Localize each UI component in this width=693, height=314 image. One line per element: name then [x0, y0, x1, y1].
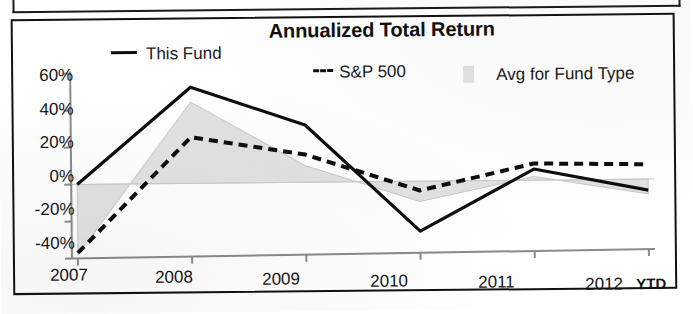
plot-area	[13, 15, 680, 297]
y-tick-label: -40%	[13, 234, 75, 255]
y-tick-label: 20%	[12, 133, 74, 154]
x-axis-suffix-label: YTD	[636, 275, 666, 292]
x-tick-label: 2009	[262, 269, 300, 289]
y-tick-label: -20%	[12, 200, 74, 221]
x-tick-label: 2011	[478, 272, 515, 292]
x-tick-label: 2010	[370, 271, 408, 291]
cropped-frame-above	[12, 0, 680, 13]
chart-container: Annualized Total Return This Fund S&P 50…	[11, 13, 678, 295]
y-tick-label: 0%	[12, 167, 74, 188]
y-tick-label: 40%	[11, 100, 73, 121]
chart-plot-svg	[13, 15, 680, 297]
x-axis-line	[72, 249, 655, 259]
x-tick-label: 2008	[155, 267, 193, 287]
y-tick-label: 60%	[11, 66, 73, 87]
x-tick-label: 2007	[50, 265, 88, 285]
scanned-page: Annualized Total Return This Fund S&P 50…	[0, 0, 693, 314]
x-tick-label: 2012	[585, 274, 623, 294]
